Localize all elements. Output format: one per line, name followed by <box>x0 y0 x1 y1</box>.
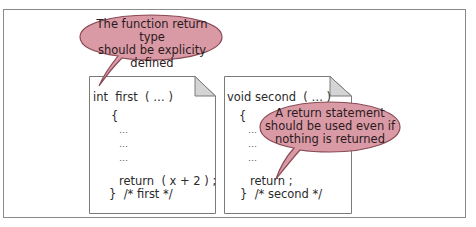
callout-return-type: The function return type should be expli… <box>78 14 224 88</box>
ellipsis-line: … <box>119 154 129 163</box>
ellipsis-line: … <box>248 126 258 135</box>
callout-return-statement: A return statement should be used even i… <box>258 101 402 181</box>
code-page-first: int first ( … ) { … … … return ( x + 2 )… <box>89 76 216 214</box>
callout-line: nothing is returned <box>260 133 400 146</box>
function-header-first: int first ( … ) <box>93 92 173 104</box>
close-line-first: } /* first */ <box>109 189 173 201</box>
ellipsis-line: … <box>119 126 129 135</box>
folded-corner-icon <box>330 77 352 97</box>
ellipsis-line: … <box>119 140 129 149</box>
close-line-second: } /* second */ <box>240 189 322 201</box>
ellipsis-line: … <box>248 140 258 149</box>
return-line-first: return ( x + 2 ) ; <box>119 176 216 188</box>
open-brace-first: { <box>111 111 118 123</box>
callout-line: The function return type <box>82 18 222 44</box>
callout-line: defined <box>82 57 222 70</box>
open-brace-second: { <box>239 111 246 123</box>
ellipsis-line: … <box>248 154 258 163</box>
